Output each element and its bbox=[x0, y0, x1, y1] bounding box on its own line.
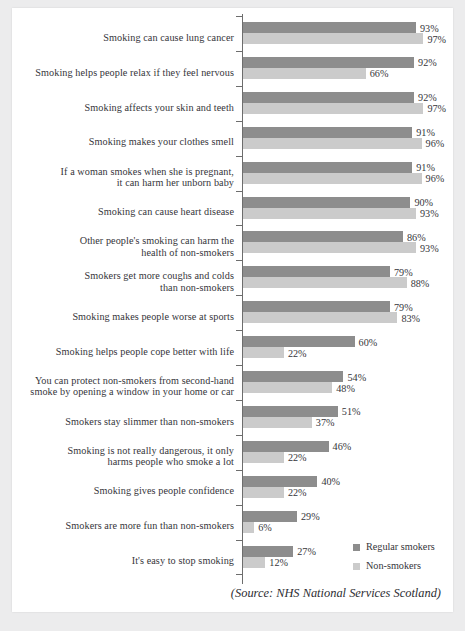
bar-non-smokers bbox=[243, 138, 422, 149]
legend-item: Non-smokers bbox=[353, 560, 463, 579]
axis-tick bbox=[236, 470, 242, 471]
value-label-regular-smokers: 29% bbox=[301, 511, 320, 522]
legend-label: Non-smokers bbox=[366, 560, 421, 571]
bar-regular-smokers bbox=[243, 92, 414, 103]
bar-regular-smokers bbox=[243, 162, 412, 173]
category-label-line: If a woman smokes when she is pregnant, bbox=[12, 166, 234, 178]
category-label-line: Smoking makes people worse at sports bbox=[12, 311, 234, 323]
category-label-line: Smoking helps people relax if they feel … bbox=[12, 67, 234, 79]
bar-non-smokers bbox=[243, 417, 312, 428]
category-label: It's easy to stop smoking bbox=[12, 555, 234, 567]
axis-tick bbox=[236, 295, 242, 296]
category-label-line: Smoking can cause heart disease bbox=[12, 206, 234, 218]
axis-tick bbox=[236, 260, 242, 261]
axis-tick bbox=[236, 51, 242, 52]
bar-regular-smokers bbox=[243, 127, 412, 138]
bar-non-smokers bbox=[243, 522, 254, 533]
category-label-line: than non-smokers bbox=[12, 282, 234, 294]
bar-non-smokers bbox=[243, 33, 423, 44]
category-label-line: health of non-smokers bbox=[12, 247, 234, 259]
grouped-bar-chart: Smoking can cause lung cancer93%97%Smoki… bbox=[12, 8, 453, 612]
category-label-line: It's easy to stop smoking bbox=[12, 555, 234, 567]
value-label-regular-smokers: 51% bbox=[342, 406, 361, 417]
category-label-line: Smoking can cause lung cancer bbox=[12, 32, 234, 44]
category-label-line: smoke by opening a window in your home o… bbox=[12, 386, 234, 398]
bar-non-smokers bbox=[243, 487, 284, 498]
axis-tick bbox=[236, 86, 242, 87]
category-label: Smokers are more fun than non-smokers bbox=[12, 520, 234, 532]
value-label-regular-smokers: 40% bbox=[321, 476, 340, 487]
value-label-regular-smokers: 60% bbox=[359, 337, 378, 348]
axis-tick bbox=[236, 574, 242, 575]
category-label-line: Smokers get more coughs and colds bbox=[12, 270, 234, 282]
value-label-regular-smokers: 79% bbox=[394, 302, 413, 313]
category-label: Smoking makes people worse at sports bbox=[12, 311, 234, 323]
value-label-non-smokers: 12% bbox=[269, 557, 288, 568]
category-label: Smoking helps people cope better with li… bbox=[12, 346, 234, 358]
bar-non-smokers bbox=[243, 68, 366, 79]
value-label-regular-smokers: 93% bbox=[420, 23, 439, 34]
bar-non-smokers bbox=[243, 382, 332, 393]
category-label: Smoking can cause lung cancer bbox=[12, 32, 234, 44]
bar-regular-smokers bbox=[243, 546, 293, 557]
value-label-regular-smokers: 79% bbox=[394, 267, 413, 278]
category-label: Smoking affects your skin and teeth bbox=[12, 102, 234, 114]
legend-label: Regular smokers bbox=[366, 541, 435, 552]
category-label: Smoking makes your clothes smell bbox=[12, 136, 234, 148]
category-label: If a woman smokes when she is pregnant,i… bbox=[12, 166, 234, 189]
value-label-non-smokers: 83% bbox=[401, 313, 420, 324]
axis-tick bbox=[236, 435, 242, 436]
category-label: You can protect non-smokers from second-… bbox=[12, 375, 234, 398]
category-label-line: Smoking makes your clothes smell bbox=[12, 136, 234, 148]
bar-non-smokers bbox=[243, 557, 265, 568]
category-label: Smoking is not really dangerous, it only… bbox=[12, 445, 234, 468]
value-label-non-smokers: 97% bbox=[427, 34, 446, 45]
category-label: Smokers get more coughs and coldsthan no… bbox=[12, 270, 234, 293]
category-label: Smoking can cause heart disease bbox=[12, 206, 234, 218]
bar-regular-smokers bbox=[243, 266, 390, 277]
axis-tick bbox=[236, 540, 242, 541]
axis-tick bbox=[236, 16, 242, 17]
value-label-non-smokers: 22% bbox=[288, 452, 307, 463]
category-label-line: Smokers are more fun than non-smokers bbox=[12, 520, 234, 532]
category-label-line: Smoking is not really dangerous, it only bbox=[12, 445, 234, 457]
bar-regular-smokers bbox=[243, 476, 317, 487]
bar-regular-smokers bbox=[243, 511, 297, 522]
bar-non-smokers bbox=[243, 173, 422, 184]
legend-item: Regular smokers bbox=[353, 541, 463, 560]
bar-regular-smokers bbox=[243, 406, 338, 417]
category-label-line: harms people who smoke a lot bbox=[12, 456, 234, 468]
value-label-regular-smokers: 46% bbox=[333, 441, 352, 452]
category-label: Smoking gives people confidence bbox=[12, 485, 234, 497]
chart-legend: Regular smokersNon-smokers bbox=[353, 541, 463, 579]
value-label-non-smokers: 22% bbox=[288, 487, 307, 498]
value-label-non-smokers: 22% bbox=[288, 348, 307, 359]
value-label-regular-smokers: 91% bbox=[416, 162, 435, 173]
bar-non-smokers bbox=[243, 452, 284, 463]
value-label-regular-smokers: 27% bbox=[297, 546, 316, 557]
bar-non-smokers bbox=[243, 277, 407, 288]
value-label-non-smokers: 96% bbox=[426, 173, 445, 184]
bar-non-smokers bbox=[243, 242, 416, 253]
category-label: Smoking helps people relax if they feel … bbox=[12, 67, 234, 79]
source-note: (Source: NHS National Services Scotland) bbox=[12, 586, 441, 601]
category-label-line: You can protect non-smokers from second-… bbox=[12, 375, 234, 387]
bar-non-smokers bbox=[243, 347, 284, 358]
value-label-non-smokers: 93% bbox=[420, 208, 439, 219]
category-label-line: Smoking gives people confidence bbox=[12, 485, 234, 497]
bar-regular-smokers bbox=[243, 441, 329, 452]
axis-tick bbox=[236, 191, 242, 192]
bar-regular-smokers bbox=[243, 336, 355, 347]
value-label-non-smokers: 93% bbox=[420, 243, 439, 254]
chart-card: Smoking can cause lung cancer93%97%Smoki… bbox=[12, 8, 453, 612]
category-label: Other people's smoking can harm thehealt… bbox=[12, 235, 234, 258]
value-label-regular-smokers: 91% bbox=[416, 127, 435, 138]
legend-swatch-icon bbox=[353, 544, 360, 551]
value-label-non-smokers: 6% bbox=[258, 522, 272, 533]
page-background: Smoking can cause lung cancer93%97%Smoki… bbox=[0, 0, 465, 631]
category-label-line: Smoking helps people cope better with li… bbox=[12, 346, 234, 358]
value-label-regular-smokers: 92% bbox=[418, 92, 437, 103]
bar-regular-smokers bbox=[243, 22, 416, 33]
bar-non-smokers bbox=[243, 312, 397, 323]
value-label-regular-smokers: 54% bbox=[347, 372, 366, 383]
